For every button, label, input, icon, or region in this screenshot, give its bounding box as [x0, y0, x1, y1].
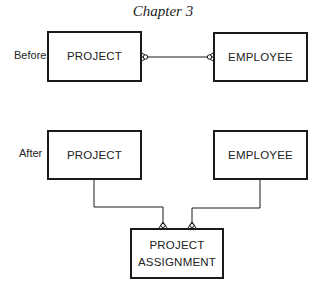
entity-name-line-2: ASSIGNMENT — [138, 254, 216, 271]
before-project-entity[interactable]: PROJECT — [47, 31, 142, 82]
after-project-relationship-line — [94, 180, 167, 228]
chapter-title: Chapter 3 — [0, 3, 320, 20]
after-employee-entity[interactable]: EMPLOYEE — [213, 130, 308, 180]
entity-name-line-1: PROJECT — [138, 237, 216, 254]
before-relationship-line — [142, 53, 213, 61]
after-project-assignment-entity[interactable]: PROJECT ASSIGNMENT — [130, 228, 224, 279]
before-employee-entity[interactable]: EMPLOYEE — [213, 32, 308, 82]
entity-name: PROJECT ASSIGNMENT — [138, 237, 216, 271]
entity-name: EMPLOYEE — [228, 49, 293, 66]
before-label: Before — [14, 49, 46, 61]
crows-foot-icon — [142, 53, 148, 61]
entity-name: PROJECT — [67, 147, 122, 164]
after-project-entity[interactable]: PROJECT — [47, 130, 142, 180]
entity-name: EMPLOYEE — [228, 147, 293, 164]
after-employee-relationship-line — [188, 180, 260, 228]
after-label: After — [19, 147, 42, 159]
entity-name: PROJECT — [67, 48, 122, 65]
